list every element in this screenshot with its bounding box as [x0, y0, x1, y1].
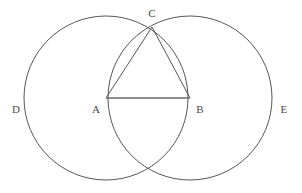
geometry-canvas: [0, 0, 302, 193]
point-label-a: A: [92, 104, 100, 115]
segment-ca: [106, 27, 152, 98]
point-label-c: C: [148, 8, 156, 19]
point-label-e: E: [281, 104, 288, 115]
segment-cb: [152, 27, 190, 98]
point-label-d: D: [12, 104, 20, 115]
point-label-b: B: [196, 104, 204, 115]
geometry-figure: C A B D E: [0, 0, 302, 193]
